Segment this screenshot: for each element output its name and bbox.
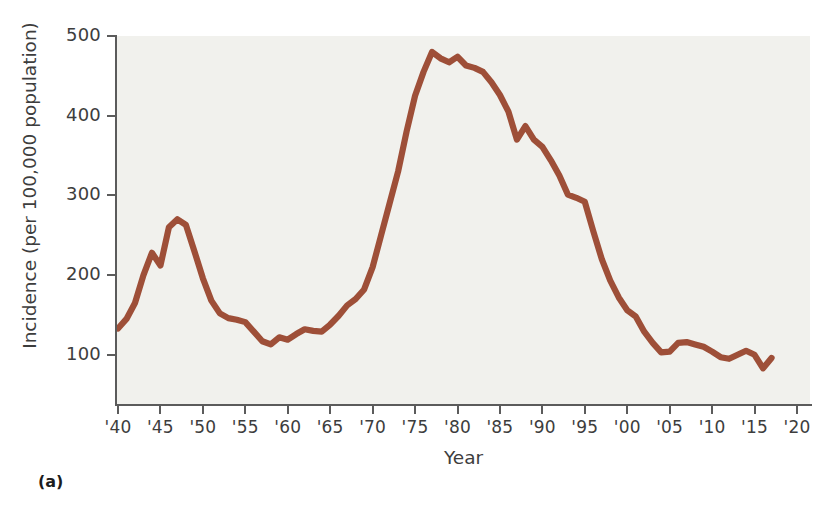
x-tick-label-2005: '05 [647,417,693,437]
x-tick-1950 [202,406,204,414]
x-tick-label-2010: '10 [689,417,735,437]
x-tick-1965 [329,406,331,414]
x-tick-label-1955: '55 [222,417,268,437]
x-tick-2015 [754,406,756,414]
plot-area [117,36,810,405]
x-axis-line [115,404,812,406]
x-tick-label-1975: '75 [392,417,438,437]
x-tick-2005 [669,406,671,414]
x-tick-label-1995: '95 [562,417,608,437]
incidence-line-chart-figure: 100200300400500 '40'45'50'55'60'65'70'75… [0,0,821,507]
panel-label: (a) [38,472,63,491]
y-tick-label-500: 500 [0,24,101,45]
x-tick-2010 [711,406,713,414]
y-axis-title: Incidence (per 100,000 population) [19,0,40,401]
x-tick-label-1960: '60 [265,417,311,437]
y-tick-label-100: 100 [0,343,101,364]
series-line-incidence [117,36,810,405]
x-tick-1970 [372,406,374,414]
y-tick-label-400: 400 [0,104,101,125]
x-tick-label-1945: '45 [137,417,183,437]
x-tick-1990 [541,406,543,414]
x-tick-label-1970: '70 [350,417,396,437]
x-tick-1940 [117,406,119,414]
x-tick-label-1990: '90 [519,417,565,437]
x-tick-label-1985: '85 [477,417,523,437]
x-tick-1960 [287,406,289,414]
y-tick-200 [107,274,115,276]
x-tick-1975 [414,406,416,414]
x-axis-title: Year [117,447,810,468]
y-tick-label-200: 200 [0,263,101,284]
x-tick-1995 [584,406,586,414]
y-tick-300 [107,194,115,196]
x-tick-1945 [159,406,161,414]
x-tick-label-1980: '80 [435,417,481,437]
x-tick-label-1950: '50 [180,417,226,437]
x-tick-label-1940: '40 [95,417,141,437]
y-tick-100 [107,354,115,356]
x-tick-label-2020: '20 [774,417,820,437]
x-tick-1985 [499,406,501,414]
y-axis-line [115,35,117,406]
x-tick-label-2000: '00 [604,417,650,437]
x-tick-2020 [796,406,798,414]
y-tick-400 [107,115,115,117]
x-tick-1980 [457,406,459,414]
x-tick-label-1965: '65 [307,417,353,437]
y-tick-500 [107,35,115,37]
x-tick-label-2015: '15 [732,417,778,437]
x-tick-1955 [244,406,246,414]
x-tick-2000 [626,406,628,414]
y-tick-label-300: 300 [0,183,101,204]
